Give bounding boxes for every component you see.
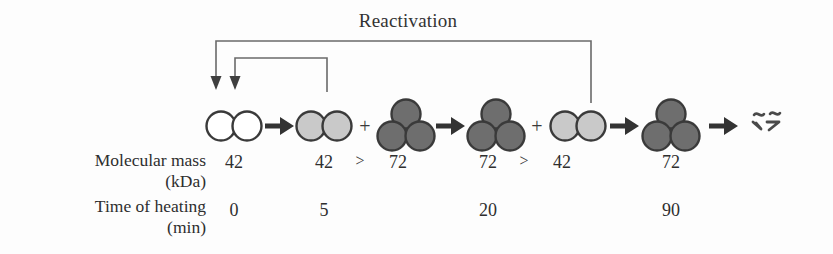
species-dimer-light-2 xyxy=(548,98,608,154)
species-dimer-native xyxy=(204,98,264,154)
mass-value-6: 72 xyxy=(651,152,691,173)
mass-comparator-1: > xyxy=(348,152,372,170)
species-trimer-dark-1 xyxy=(376,98,436,154)
arrow-right-icon-3 xyxy=(608,98,642,154)
molecular-mass-row-label: Molecular mass (kDa) xyxy=(10,150,206,192)
time-value-2: 5 xyxy=(304,200,344,221)
time-value-1: 0 xyxy=(214,200,254,221)
arrow-right-icon-1 xyxy=(263,98,297,154)
mass-value-2: 42 xyxy=(304,152,344,173)
time-of-heating-label-line2: (min) xyxy=(10,217,206,238)
species-trimer-dark-3 xyxy=(641,98,701,154)
reaction-sequence: + + xyxy=(0,98,833,154)
mass-value-3: 72 xyxy=(378,152,418,173)
plus-sign-2: + xyxy=(527,98,547,154)
species-dimer-light-1 xyxy=(294,98,354,154)
time-of-heating-row-label: Time of heating (min) xyxy=(10,196,206,238)
time-of-heating-label-line1: Time of heating xyxy=(10,196,206,217)
molecular-mass-label-line2: (kDa) xyxy=(10,171,206,192)
reactivation-diagram: Reactivation xyxy=(0,0,833,254)
arrow-right-icon-2 xyxy=(434,98,468,154)
species-denatured-squiggle-icon xyxy=(746,98,800,154)
arrow-right-icon-4 xyxy=(707,98,741,154)
mass-value-5: 42 xyxy=(542,152,582,173)
reactivation-bracket-outer xyxy=(211,41,592,103)
mass-value-4: 72 xyxy=(468,152,508,173)
plus-sign-1: + xyxy=(355,98,375,154)
reactivation-label: Reactivation xyxy=(318,10,498,32)
mass-comparator-2: > xyxy=(512,152,536,170)
molecular-mass-label-line1: Molecular mass xyxy=(10,150,206,171)
species-trimer-dark-2 xyxy=(466,98,526,154)
time-value-3: 20 xyxy=(468,200,508,221)
reactivation-bracket-inner xyxy=(230,58,328,92)
mass-value-1: 42 xyxy=(214,152,254,173)
time-value-4: 90 xyxy=(651,200,691,221)
